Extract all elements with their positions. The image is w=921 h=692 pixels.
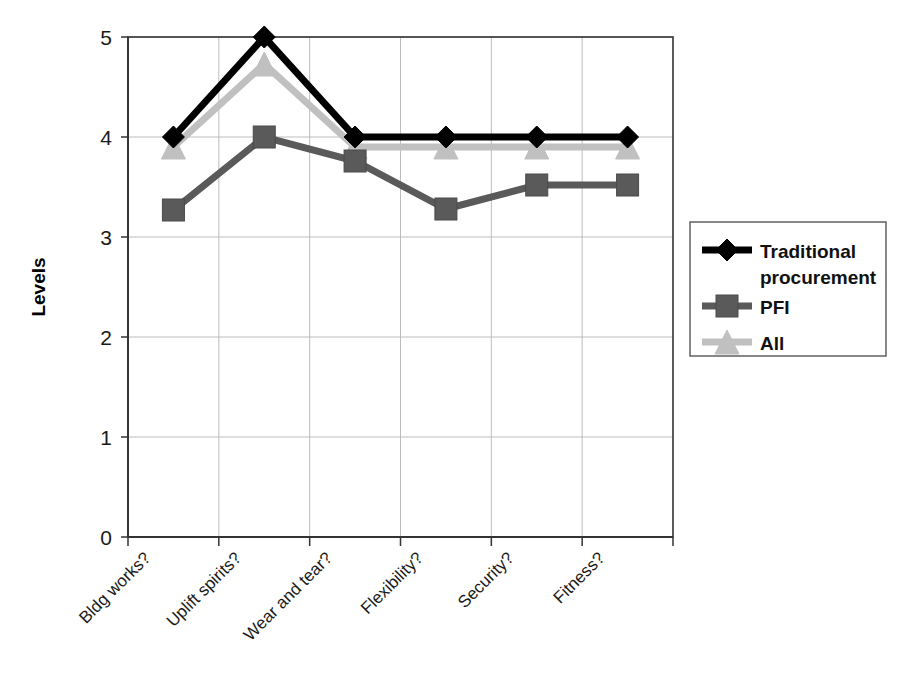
x-axis-ticks: [128, 537, 673, 546]
legend-item-label-line2: procurement: [760, 267, 877, 288]
x-axis-category-label: Bldg works?: [75, 548, 154, 627]
y-tick-label: 5: [100, 26, 112, 49]
chart-legend: TraditionalprocurementPFIAll: [690, 222, 886, 356]
y-tick-label: 1: [100, 426, 112, 449]
x-axis-category-label: Wear and tear?: [240, 548, 336, 644]
y-tick-label: 0: [100, 526, 112, 549]
legend-item-label: PFI: [760, 297, 790, 318]
x-axis-category-labels: Bldg works?Uplift spirits?Wear and tear?…: [75, 548, 608, 644]
x-axis-category-label: Flexibility?: [357, 548, 427, 618]
legend-item-label: All: [760, 333, 784, 354]
y-tick-label: 2: [100, 326, 112, 349]
data-point-marker-square: [716, 295, 738, 317]
legend-item-label: Traditional: [760, 241, 856, 262]
x-axis-category-label: Fitness?: [550, 548, 609, 607]
x-axis-category-label: Security?: [454, 548, 518, 612]
data-point-marker-square: [435, 198, 457, 220]
data-point-marker-square: [344, 150, 366, 172]
x-axis-category-label: Uplift spirits?: [163, 548, 245, 630]
data-point-marker-square: [162, 199, 184, 221]
y-tick-label: 4: [100, 126, 112, 149]
data-point-marker-square: [253, 126, 275, 148]
data-point-marker-square: [617, 174, 639, 196]
y-axis-ticks: 012345: [100, 26, 128, 549]
data-point-marker-square: [526, 174, 548, 196]
chart-container: 012345 Levels Bldg works?Uplift spirits?…: [0, 0, 921, 692]
y-tick-label: 3: [100, 226, 112, 249]
line-chart: 012345 Levels Bldg works?Uplift spirits?…: [0, 0, 921, 692]
y-axis-title: Levels: [28, 257, 49, 316]
